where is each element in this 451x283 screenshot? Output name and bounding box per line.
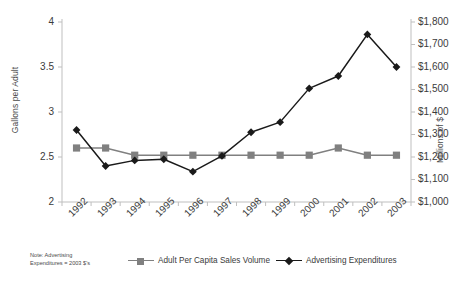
- data-point-sales: [364, 152, 371, 159]
- data-point-sales: [247, 152, 254, 159]
- series-line-sales: [77, 148, 397, 155]
- legend-key-square-icon: [128, 256, 154, 265]
- legend-item-sales[interactable]: Adult Per Capita Sales Volume: [128, 256, 270, 265]
- y-axis-left-tick-label: 4: [20, 16, 54, 27]
- data-point-sales: [335, 144, 342, 151]
- chart-container: Gallons per Adult Millions of $ 22.533.5…: [0, 0, 451, 283]
- chart-legend: Adult Per Capita Sales Volume Advertisin…: [128, 256, 397, 265]
- y-axis-right-tick-label: $1,000: [418, 196, 451, 207]
- chart-note-line-2: Expenditures = 2003 $'s: [30, 260, 90, 268]
- y-axis-right-tick-label: $1,700: [418, 38, 451, 49]
- y-axis-right-tick-label: $1,600: [418, 61, 451, 72]
- legend-item-advertising[interactable]: Advertising Expenditures: [276, 256, 397, 265]
- data-point-advertising: [189, 168, 197, 176]
- chart-note-line-1: Note: Advertising: [30, 252, 90, 260]
- y-axis-right-tick-label: $1,200: [418, 151, 451, 162]
- data-point-sales: [102, 144, 109, 151]
- plot-area: [0, 0, 451, 283]
- y-axis-left-tick-label: 3.5: [20, 61, 54, 72]
- chart-note: Note: Advertising Expenditures = 2003 $'…: [30, 252, 90, 267]
- y-axis-left-tick-label: 2: [20, 196, 54, 207]
- legend-label-advertising: Advertising Expenditures: [305, 256, 397, 265]
- y-axis-right-tick-label: $1,500: [418, 83, 451, 94]
- y-axis-right-tick-label: $1,800: [418, 16, 451, 27]
- data-point-sales: [277, 152, 284, 159]
- y-axis-right-tick-label: $1,100: [418, 173, 451, 184]
- data-point-sales: [306, 152, 313, 159]
- legend-label-sales: Adult Per Capita Sales Volume: [157, 256, 270, 265]
- y-axis-right-tick-label: $1,300: [418, 128, 451, 139]
- y-axis-left-tick-label: 3: [20, 106, 54, 117]
- data-point-sales: [73, 144, 80, 151]
- y-axis-right-tick-label: $1,400: [418, 106, 451, 117]
- y-axis-left-tick-label: 2.5: [20, 151, 54, 162]
- legend-key-diamond-icon: [276, 256, 302, 265]
- data-point-sales: [189, 152, 196, 159]
- data-point-sales: [393, 152, 400, 159]
